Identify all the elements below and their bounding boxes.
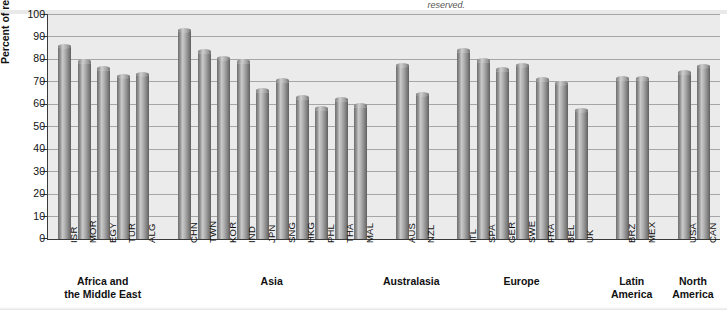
y-tick-label: 30: [19, 166, 45, 176]
y-tick-label: 50: [19, 121, 45, 131]
x-tick-label-usa: USA: [687, 187, 699, 243]
x-tick-label-tha: THA: [344, 187, 356, 243]
x-tick-label-nzl: NZL: [425, 187, 437, 243]
x-tick-label-uk: UK: [584, 187, 596, 243]
x-tick-label-itl: ITL: [467, 187, 479, 243]
x-tick-label-chn: CHN: [188, 187, 200, 243]
group-label-europe: Europe: [462, 275, 582, 288]
group-label-line: Asia: [212, 275, 332, 288]
x-tick-label-jpn: JPN: [266, 187, 278, 243]
gridline: [48, 14, 720, 15]
y-tick-label: 0: [19, 233, 45, 243]
group-label-asia: Asia: [212, 275, 332, 288]
group-label-line: Africa and: [43, 275, 163, 288]
x-tick-label-alg: ALG: [146, 187, 158, 243]
gridline: [48, 59, 720, 60]
group-label-line: North: [633, 275, 727, 288]
y-tick-label: 100: [19, 9, 45, 19]
group-label-australasia: Australasia: [351, 275, 471, 288]
top-caption-fragment: reserved.: [0, 0, 727, 10]
x-tick-label-mor: MOR: [87, 187, 99, 243]
x-tick-label-can: CAN: [707, 187, 719, 243]
x-tick-label-mex: MEX: [646, 187, 658, 243]
x-tick-label-ind: IND: [246, 187, 258, 243]
y-tick-label: 70: [19, 76, 45, 86]
x-tick-label-egy: EGY: [107, 187, 119, 243]
chart-figure: reserved. Percent of respondents 0102030…: [0, 0, 727, 310]
y-tick-label: 20: [19, 188, 45, 198]
x-tick-label-swe: SWE: [526, 187, 538, 243]
group-label-line: America: [633, 288, 727, 301]
x-tick-label-spa: SPA: [486, 187, 498, 243]
y-tick-label: 40: [19, 143, 45, 153]
y-axis-title: Percent of respondents: [0, 0, 13, 64]
group-label-line: the Middle East: [43, 288, 163, 301]
gridline: [48, 36, 720, 37]
group-label-line: Europe: [462, 275, 582, 288]
y-tick-label: 60: [19, 98, 45, 108]
x-tick-label-ger: GER: [506, 187, 518, 243]
x-tick-label-bel: BEL: [565, 187, 577, 243]
y-tick-label: 80: [19, 53, 45, 63]
group-label-line: Australasia: [351, 275, 471, 288]
x-tick-label-brz: BRZ: [626, 187, 638, 243]
x-tick-label-aus: AUS: [406, 187, 418, 243]
x-tick-label-sng: SNG: [286, 187, 298, 243]
group-label-africa-and-the-middle-east: Africa andthe Middle East: [43, 275, 163, 300]
x-tick-label-twn: TWN: [207, 187, 219, 243]
x-tick-label-hkg: HKG: [305, 187, 317, 243]
x-tick-label-mal: MAL: [364, 187, 376, 243]
x-tick-label-phl: PHL: [325, 187, 337, 243]
y-tick-label: 90: [19, 31, 45, 41]
x-tick-label-kor: KOR: [227, 187, 239, 243]
group-label-north-america: NorthAmerica: [633, 275, 727, 300]
x-tick-label-isr: ISR: [68, 187, 80, 243]
x-tick-label-tur: TUR: [126, 187, 138, 243]
y-tick-label: 10: [19, 211, 45, 221]
x-tick-label-fra: FRA: [545, 187, 557, 243]
